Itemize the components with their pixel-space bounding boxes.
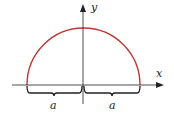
right-brace xyxy=(84,86,140,96)
semicircle-diagram: y x a a xyxy=(0,0,174,120)
x-axis-label: x xyxy=(156,68,162,79)
right-brace-label: a xyxy=(109,100,116,111)
x-axis-arrow-icon xyxy=(156,82,164,88)
diagram-graphics xyxy=(0,0,174,120)
y-axis-label: y xyxy=(91,2,97,13)
semicircle-curve xyxy=(27,28,140,85)
y-axis-arrow-icon xyxy=(80,4,86,12)
left-brace xyxy=(27,86,82,96)
left-brace-label: a xyxy=(50,100,57,111)
